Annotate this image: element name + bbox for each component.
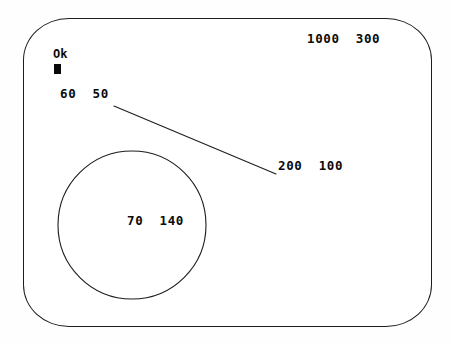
cursor-block-icon: [54, 64, 61, 74]
label-70-140: 70 140: [127, 215, 184, 227]
label-1000-300: 1000 300: [307, 33, 380, 45]
crt-screen-capture: Ok 1000 300 60 50 200 100 70 140: [0, 0, 451, 346]
crt-bezel-outline: [23, 18, 432, 327]
label-200-100: 200 100: [278, 160, 343, 172]
label-60-50: 60 50: [60, 88, 109, 100]
prompt-ok-label: Ok: [53, 48, 67, 60]
